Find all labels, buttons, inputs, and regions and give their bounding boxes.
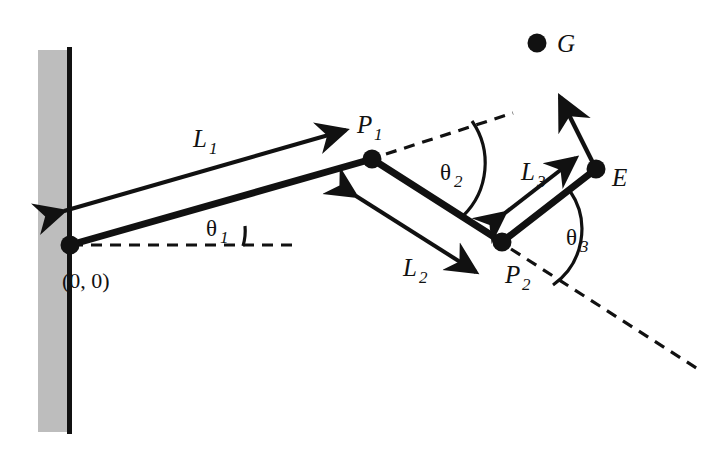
link2-extension-dashed <box>511 249 701 371</box>
angle-arc-theta2 <box>463 121 485 216</box>
diagram-canvas: (0, 0) L 1 L 2 L 3 θ 1 θ 2 θ 3 P 1 P 2 E… <box>0 0 727 457</box>
joint-P2-dot <box>493 233 512 252</box>
theta2-label-sub: 2 <box>454 172 463 191</box>
link1-label: L <box>192 125 207 152</box>
angle-arc-theta1 <box>243 226 245 246</box>
theta3-label: θ <box>566 225 577 250</box>
link3-label: L <box>520 158 535 185</box>
endpoint-E-label: E <box>611 164 627 191</box>
theta3-label-sub: 3 <box>579 237 589 256</box>
joint-E-dot <box>587 160 606 179</box>
kinematics-figure: (0, 0) L 1 L 2 L 3 θ 1 θ 2 θ 3 P 1 P 2 E… <box>0 0 727 457</box>
goal-G-dot <box>528 34 547 53</box>
link2-label: L <box>402 254 417 281</box>
joint-P1-dot <box>363 150 382 169</box>
link1-extension-dashed <box>386 113 513 154</box>
link3-label-sub: 3 <box>536 172 546 191</box>
link1-label-sub: 1 <box>209 139 218 158</box>
joint-P2-label-sub: 2 <box>522 275 531 294</box>
link2-label-sub: 2 <box>419 268 428 287</box>
link-L2 <box>372 159 502 242</box>
goal-G-label: G <box>557 30 575 57</box>
joint-P2-label: P <box>504 261 520 288</box>
joint-origin-dot <box>61 236 80 255</box>
origin-label: (0, 0) <box>62 268 110 293</box>
end-effector-velocity-arrow <box>560 97 596 169</box>
joint-P1-label-sub: 1 <box>374 125 383 144</box>
theta2-label: θ <box>440 160 451 185</box>
joint-P1-label: P <box>356 111 372 138</box>
theta1-label-sub: 1 <box>220 228 229 247</box>
theta1-label: θ <box>206 216 217 241</box>
